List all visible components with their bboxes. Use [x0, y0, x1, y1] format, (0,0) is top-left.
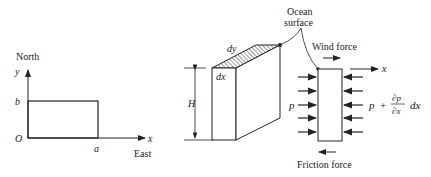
- left-pressure-arrows: [298, 77, 316, 132]
- left-pressure-label: p: [288, 99, 295, 111]
- svg-text:+: +: [380, 99, 386, 111]
- x-axis-label-right: x: [381, 63, 387, 74]
- ocean-label: Ocean: [287, 6, 313, 17]
- wind-force-label: Wind force: [312, 41, 357, 52]
- svg-text:dx: dx: [410, 99, 421, 111]
- east-label: East: [134, 148, 151, 159]
- surface-label: surface: [284, 17, 313, 28]
- x-axis-label: x: [147, 133, 153, 144]
- svg-text:∂x: ∂x: [392, 106, 400, 116]
- fluid-element-box: [318, 69, 342, 141]
- right-pressure-formula: p + ∂p ∂x dx: [368, 93, 421, 116]
- force-balance-panel: Ocean surface Wind force x p p: [280, 6, 421, 170]
- ocean-basin-rectangle: [28, 101, 98, 138]
- diagram-canvas: North y x b O a East H dy dx Ocean surfa…: [0, 0, 431, 177]
- svg-text:p: p: [368, 99, 375, 111]
- y-axis-label: y: [14, 66, 20, 77]
- friction-force-label: Friction force: [297, 159, 352, 170]
- svg-text:∂p: ∂p: [392, 93, 401, 103]
- a-label: a: [94, 143, 99, 154]
- origin-label: O: [15, 133, 22, 144]
- right-pressure-arrows: [344, 77, 363, 132]
- surface-leader-line: [280, 28, 301, 45]
- north-label: North: [16, 51, 39, 62]
- b-label: b: [15, 96, 20, 107]
- dx-label: dx: [216, 71, 226, 82]
- h-label: H: [187, 98, 196, 109]
- coordinate-domain-panel: North y x b O a East: [14, 51, 153, 159]
- water-column-block: H dy dx: [184, 43, 282, 140]
- dy-label: dy: [227, 43, 237, 54]
